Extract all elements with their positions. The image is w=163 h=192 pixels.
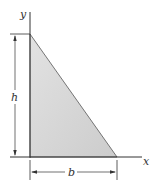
triangle-diagram: h b y x xyxy=(0,0,163,192)
base-arrow-right-icon xyxy=(110,170,116,173)
height-label: h xyxy=(11,91,18,104)
base-label: b xyxy=(68,166,75,179)
x-axis-label: x xyxy=(143,155,150,168)
triangle-region xyxy=(30,34,117,157)
height-arrow-bottom-icon xyxy=(13,150,16,156)
base-arrow-left-icon xyxy=(31,170,37,173)
height-arrow-top-icon xyxy=(13,35,16,41)
y-axis-label: y xyxy=(19,8,27,21)
